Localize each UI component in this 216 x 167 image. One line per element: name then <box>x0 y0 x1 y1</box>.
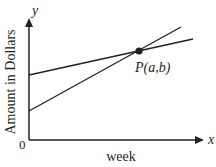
intersection-point <box>135 47 142 54</box>
x-axis-arrow-icon <box>195 136 204 144</box>
origin-label: 0 <box>19 137 26 152</box>
y-axis-symbol: y <box>30 3 39 18</box>
y-axis-arrow-icon <box>25 18 33 27</box>
chart: y x 0 week Amount in Dollars P(a,b) <box>0 0 216 167</box>
intersection-label: P(a,b) <box>134 60 171 76</box>
y-axis-label: Amount in Dollars <box>3 30 18 135</box>
x-axis-symbol: x <box>207 132 215 147</box>
x-axis-label: week <box>106 149 136 164</box>
